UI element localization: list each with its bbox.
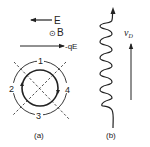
helix-arrow-icon (111, 7, 116, 14)
caption-b: (b) (106, 131, 116, 140)
b-field-dot-icon: ⊙ (49, 29, 56, 38)
b-field-label: B (57, 27, 64, 38)
force-label: -qE (65, 42, 77, 51)
panel-b: vD (b) (100, 7, 133, 140)
drift-velocity-label: vD (124, 27, 133, 39)
diagram-canvas: E ⊙ B -qE 1 2 3 4 (a) vD (b (0, 0, 150, 147)
region-label-3: 3 (36, 111, 41, 121)
region-label-4: 4 (65, 85, 70, 95)
panel-a: E ⊙ B -qE 1 2 3 4 (a) (8, 15, 77, 140)
region-label-1: 1 (38, 56, 43, 66)
helix-trajectory (100, 10, 113, 128)
region-label-2: 2 (9, 84, 14, 94)
e-field-label: E (54, 15, 61, 26)
caption-a: (a) (34, 131, 44, 140)
